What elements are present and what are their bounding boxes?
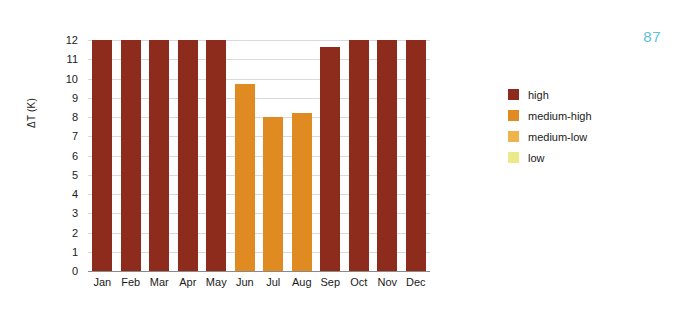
bar-mar [149, 40, 169, 271]
plot-area [88, 40, 430, 271]
legend-swatch-icon [508, 152, 519, 163]
y-axis-tick-labels: 1211109876543210 [0, 40, 84, 271]
bar-feb [121, 40, 141, 271]
legend-label: low [528, 152, 545, 164]
y-tick-label: 8 [72, 112, 78, 123]
bar-dec [406, 40, 426, 271]
page-number: 87 [643, 28, 661, 45]
bar-nov [377, 40, 397, 271]
y-tick-label: 7 [72, 131, 78, 142]
bar-may [206, 40, 226, 271]
legend-swatch-icon [508, 131, 519, 142]
legend-item: high [508, 84, 592, 105]
bar-jul [263, 117, 283, 271]
bar-apr [178, 40, 198, 271]
y-tick-label: 3 [72, 208, 78, 219]
x-tick-label: Dec [396, 276, 436, 289]
legend-label: medium-high [528, 110, 592, 122]
y-tick-label: 2 [72, 227, 78, 238]
bar-oct [349, 40, 369, 271]
bar-sep [320, 47, 340, 271]
y-tick-label: 6 [72, 150, 78, 161]
legend-label: medium-low [528, 131, 587, 143]
legend-item: medium-low [508, 126, 592, 147]
bar-jun [235, 84, 255, 271]
legend-swatch-icon [508, 110, 519, 121]
bar-jan [92, 40, 112, 271]
legend: highmedium-highmedium-lowlow [508, 84, 592, 168]
bar-series [88, 40, 430, 271]
y-tick-label: 4 [72, 189, 78, 200]
y-tick-label: 0 [72, 266, 78, 277]
y-tick-label: 11 [67, 54, 78, 65]
figure-bar-chart: 87 ΔT (K) 1211109876543210 JanFebMarAprM… [0, 0, 685, 314]
y-tick-label: 1 [72, 246, 78, 257]
x-axis-tick-labels: JanFebMarAprMayJunJulAugSepOctNovDec [88, 276, 430, 298]
x-axis-line [88, 271, 430, 272]
y-tick-label: 5 [72, 169, 78, 180]
legend-label: high [528, 89, 549, 101]
legend-swatch-icon [508, 89, 519, 100]
legend-item: medium-high [508, 105, 592, 126]
y-tick-label: 9 [72, 92, 78, 103]
y-tick-label: 10 [66, 73, 78, 84]
legend-item: low [508, 147, 592, 168]
bar-aug [292, 113, 312, 271]
y-tick-label: 12 [66, 35, 78, 46]
